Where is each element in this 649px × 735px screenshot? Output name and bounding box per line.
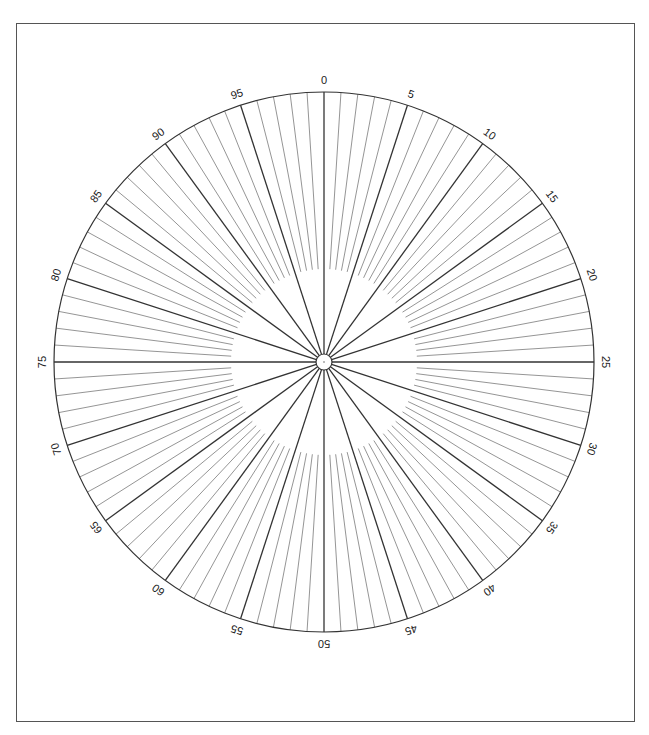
division-label: 55	[229, 623, 244, 638]
minor-division-line	[80, 402, 240, 477]
minor-division-line	[225, 448, 290, 613]
minor-division-line	[152, 154, 265, 290]
minor-division-line	[194, 443, 279, 598]
minor-division-line	[374, 441, 469, 590]
minor-division-line	[127, 426, 256, 547]
minor-division-line	[369, 443, 454, 598]
minor-division-line	[383, 154, 496, 290]
major-division-line	[241, 370, 322, 619]
minor-division-line	[73, 396, 238, 461]
minor-division-line	[209, 118, 284, 278]
division-label: 60	[150, 582, 167, 599]
major-division-line	[326, 370, 407, 619]
minor-division-line	[358, 448, 423, 613]
major-division-line	[67, 364, 316, 445]
minor-division-line	[127, 177, 256, 298]
percentage-dial: 05101520253035404550556065707580859095	[0, 0, 649, 735]
division-label: 90	[150, 125, 167, 142]
division-label: 5	[406, 87, 416, 100]
minor-division-line	[405, 407, 560, 492]
minor-division-line	[358, 111, 423, 276]
major-division-line	[241, 105, 322, 354]
division-label: 75	[36, 356, 48, 368]
minor-division-line	[364, 446, 439, 606]
minor-division-line	[152, 434, 265, 570]
division-label: 85	[87, 188, 104, 205]
major-division-line	[326, 105, 407, 354]
center-point	[323, 361, 325, 363]
division-label: 30	[585, 441, 600, 456]
minor-division-line	[96, 412, 245, 507]
minor-division-line	[209, 446, 284, 606]
division-label: 45	[403, 623, 418, 638]
minor-division-line	[139, 430, 260, 559]
division-label: 20	[585, 267, 600, 282]
minor-division-line	[179, 134, 274, 283]
minor-division-line	[80, 247, 240, 322]
minor-division-line	[405, 232, 560, 317]
minor-division-line	[396, 190, 532, 303]
minor-division-line	[96, 217, 245, 312]
minor-division-line	[364, 118, 439, 278]
minor-division-line	[139, 165, 260, 294]
division-label: 80	[48, 267, 63, 282]
minor-division-line	[410, 263, 575, 328]
minor-division-line	[116, 190, 252, 303]
minor-division-line	[179, 441, 274, 590]
division-label: 40	[481, 582, 498, 599]
division-label: 50	[318, 638, 330, 650]
division-label: 65	[87, 519, 104, 536]
minor-division-line	[87, 407, 242, 492]
division-label: 25	[600, 356, 612, 368]
minor-division-line	[392, 426, 521, 547]
minor-division-line	[410, 396, 575, 461]
minor-division-line	[383, 434, 496, 570]
major-division-line	[67, 279, 316, 360]
minor-division-line	[369, 125, 454, 280]
minor-division-line	[225, 111, 290, 276]
minor-division-line	[408, 402, 568, 477]
minor-division-line	[408, 247, 568, 322]
major-division-line	[332, 279, 581, 360]
minor-division-line	[392, 177, 521, 298]
minor-division-line	[388, 430, 509, 559]
minor-division-line	[388, 165, 509, 294]
division-label: 0	[321, 74, 327, 86]
division-label: 35	[544, 519, 561, 536]
division-label: 95	[229, 86, 244, 101]
division-label: 70	[48, 441, 63, 456]
minor-division-line	[87, 232, 242, 317]
minor-division-line	[73, 263, 238, 328]
minor-division-line	[396, 421, 532, 534]
minor-division-line	[403, 412, 552, 507]
minor-division-line	[403, 217, 552, 312]
major-division-line	[332, 364, 581, 445]
division-label: 15	[544, 188, 561, 205]
minor-division-line	[116, 421, 252, 534]
minor-division-line	[194, 125, 279, 280]
division-label: 10	[481, 125, 498, 142]
minor-division-line	[374, 134, 469, 283]
